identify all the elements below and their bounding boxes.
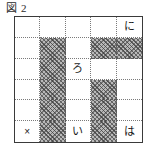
grid-cell-r3-c1[interactable]	[15, 59, 40, 80]
grid-cell-r2-c1[interactable]	[15, 38, 40, 59]
grid-cell-r2-c2[interactable]	[40, 38, 65, 59]
grid-cell-r5-c1[interactable]	[15, 100, 40, 121]
grid-cell-r5-c5[interactable]	[117, 100, 142, 121]
grid-cell-r2-c3[interactable]	[66, 38, 91, 59]
grid-cell-r1-c5[interactable]: に	[117, 17, 142, 38]
grid-cell-r3-c2[interactable]	[40, 59, 65, 80]
grid-cell-r2-c5[interactable]	[117, 38, 142, 59]
figure-caption-number: 2	[21, 3, 27, 14]
grid-cell-label: は	[124, 126, 135, 137]
grid-cell-r4-c1[interactable]	[15, 80, 40, 101]
figure-caption-badge: 図	[6, 3, 17, 14]
grid-cell-r4-c2[interactable]	[40, 80, 65, 101]
diagram-grid: にろ×いは	[15, 17, 142, 142]
grid-cell-r6-c3[interactable]: い	[66, 121, 91, 142]
grid-cell-r6-c5[interactable]: は	[117, 121, 142, 142]
grid-cell-r4-c5[interactable]	[117, 80, 142, 101]
grid-cell-label: に	[124, 21, 135, 32]
grid-cell-r5-c4[interactable]	[91, 100, 116, 121]
grid-cell-r6-c1[interactable]: ×	[15, 121, 40, 142]
grid-cell-r5-c2[interactable]	[40, 100, 65, 121]
grid-cell-r4-c3[interactable]	[66, 80, 91, 101]
grid-cell-r1-c2[interactable]	[40, 17, 65, 38]
grid-cell-r5-c3[interactable]	[66, 100, 91, 121]
grid-cell-r6-c4[interactable]	[91, 121, 116, 142]
grid-cell-r2-c4[interactable]	[91, 38, 116, 59]
grid-cell-r1-c1[interactable]	[15, 17, 40, 38]
grid-cell-r1-c3[interactable]	[66, 17, 91, 38]
grid-cell-r4-c4[interactable]	[91, 80, 116, 101]
grid-cell-label: ×	[24, 126, 30, 137]
grid-cell-r6-c2[interactable]	[40, 121, 65, 142]
grid-cell-label: い	[72, 126, 83, 137]
figure-caption: 図 2	[6, 1, 27, 15]
grid-cell-r3-c5[interactable]	[117, 59, 142, 80]
grid-cell-r1-c4[interactable]	[91, 17, 116, 38]
grid-cell-r3-c3[interactable]: ろ	[66, 59, 91, 80]
grid-cell-label: ろ	[72, 63, 83, 74]
diagram-grid-frame: にろ×いは	[14, 16, 143, 143]
grid-cell-r3-c4[interactable]	[91, 59, 116, 80]
